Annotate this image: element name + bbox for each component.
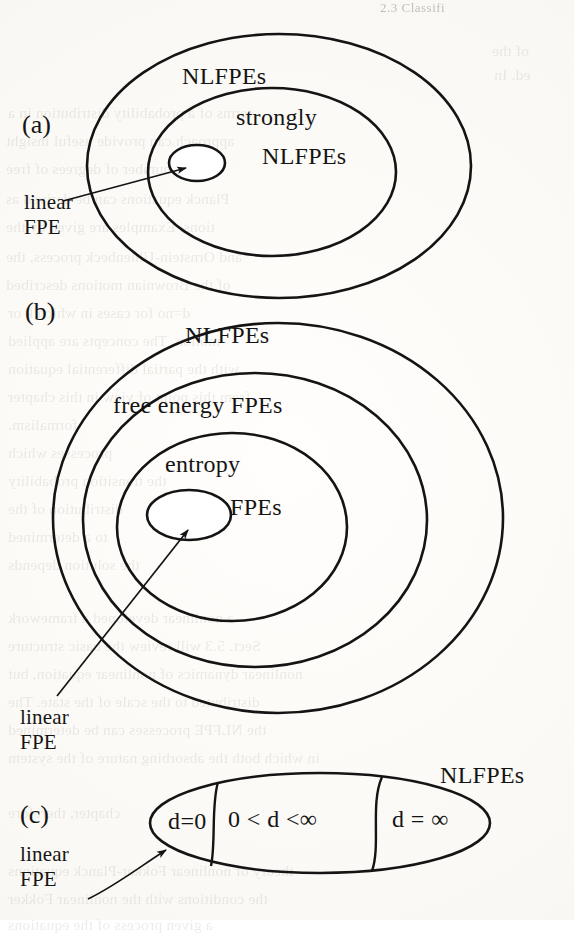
panel-c-callout-line-1: linear — [20, 842, 69, 867]
panel-c-tag: (c) — [20, 800, 49, 830]
panel-b-innermost-ellipse — [147, 490, 231, 540]
panel-a-callout-line-2: FPE — [24, 215, 73, 240]
panel-b-callout-line-1: linear — [20, 705, 69, 730]
panel-c-region-d-equals-inf: d = ∞ — [392, 806, 449, 833]
panel-a-inner-ellipse — [169, 145, 225, 181]
panel-c-callout-arrow — [88, 850, 166, 899]
panel-c-region-0-lt-d-lt-inf: 0 < d <∞ — [228, 806, 317, 833]
panel-c-shapes — [88, 773, 490, 899]
panel-b-label-fpes: FPEs — [230, 494, 282, 521]
panel-a-label-nlfpes-inner: NLFPEs — [262, 143, 347, 170]
panel-b-callout-linear-fpe: linear FPE — [20, 705, 69, 755]
panel-c-region-d-equals-0: d=0 — [168, 808, 207, 835]
panel-a-label-nlfpes-outer: NLFPEs — [182, 63, 267, 90]
panel-a-callout-linear-fpe: linear FPE — [24, 190, 73, 240]
panel-b-label-free-energy-fpes: free energy FPEs — [113, 392, 283, 419]
panel-b-label-entropy: entropy — [165, 451, 240, 478]
panel-a-tag: (a) — [22, 110, 51, 140]
panel-c-callout-linear-fpe: linear FPE — [20, 842, 69, 892]
panel-b-tag: (b) — [25, 297, 55, 327]
panel-c-callout-line-2: FPE — [20, 867, 69, 892]
panel-a-callout-arrow — [63, 168, 186, 201]
panel-c-label-nlfpes: NLFPEs — [440, 762, 525, 789]
panel-a-callout-line-1: linear — [24, 190, 73, 215]
panel-b-label-nlfpes: NLFPEs — [185, 322, 270, 349]
panel-c-divider-1 — [211, 782, 218, 866]
panel-b-callout-line-2: FPE — [20, 730, 69, 755]
panel-c-divider-2 — [372, 777, 382, 871]
panel-a-label-strongly: strongly — [236, 104, 317, 131]
